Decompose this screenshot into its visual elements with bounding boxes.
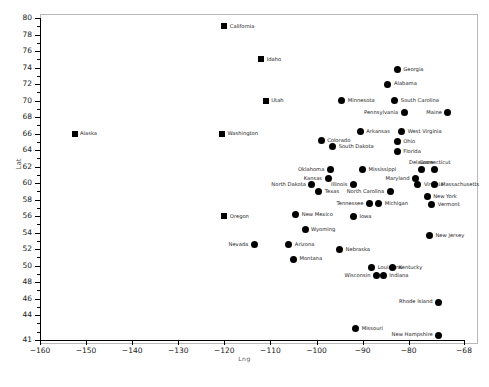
- data-point-label: Maine: [0, 110, 442, 115]
- data-point[interactable]: [435, 332, 442, 339]
- data-point[interactable]: [219, 131, 225, 137]
- data-point[interactable]: [387, 188, 394, 195]
- data-point[interactable]: [251, 241, 258, 248]
- y-tick-label: 56: [10, 212, 32, 220]
- y-tick-label: 72: [10, 80, 32, 88]
- y-tick-minor: [37, 307, 40, 308]
- y-tick-minor: [37, 43, 40, 44]
- data-point-label: Minnesota: [348, 98, 375, 103]
- data-point[interactable]: [221, 213, 227, 219]
- data-point-label: Oregon: [230, 214, 249, 219]
- data-point[interactable]: [398, 128, 405, 135]
- x-tick-label: −100: [297, 347, 337, 355]
- scatter-plot-figure: 4144464850525456586062646668707274767880…: [0, 0, 489, 387]
- data-point[interactable]: [394, 66, 401, 73]
- y-tick: [35, 216, 40, 217]
- y-tick-minor: [37, 142, 40, 143]
- y-tick-label: 76: [10, 47, 32, 55]
- data-point-label: Ohio: [403, 139, 415, 144]
- data-point-label: Montana: [299, 256, 322, 261]
- data-point-label: Washington: [228, 131, 258, 136]
- data-point[interactable]: [394, 138, 401, 145]
- data-point-label: Tennessee: [0, 201, 364, 206]
- data-point[interactable]: [72, 131, 78, 137]
- y-tick-minor: [37, 323, 40, 324]
- data-point-label: South Carolina: [401, 98, 439, 103]
- data-point[interactable]: [357, 128, 364, 135]
- data-point[interactable]: [336, 246, 343, 253]
- y-tick-minor: [37, 208, 40, 209]
- y-tick: [35, 233, 40, 234]
- x-tick-label: −160: [20, 347, 60, 355]
- data-point-label: Alabama: [394, 81, 417, 86]
- y-tick-minor: [37, 290, 40, 291]
- data-point-label: New York: [433, 194, 457, 199]
- data-point-label: Michigan: [385, 201, 408, 206]
- x-tick: [363, 340, 364, 345]
- data-point-label: Idaho: [267, 57, 281, 62]
- data-point[interactable]: [394, 148, 401, 155]
- data-point[interactable]: [302, 226, 309, 233]
- data-point-label: Connecticut: [417, 160, 453, 165]
- data-point-label: Missouri: [362, 326, 383, 331]
- data-point[interactable]: [373, 272, 380, 279]
- data-point[interactable]: [221, 23, 227, 29]
- data-point-label: South Dakota: [339, 144, 374, 149]
- data-point[interactable]: [424, 193, 431, 200]
- data-point[interactable]: [290, 256, 297, 263]
- y-tick: [35, 35, 40, 36]
- data-point-label: Nebraska: [346, 247, 370, 252]
- data-point[interactable]: [350, 213, 357, 220]
- y-tick: [35, 101, 40, 102]
- y-tick: [35, 249, 40, 250]
- x-tick: [86, 340, 87, 345]
- data-point[interactable]: [380, 272, 387, 279]
- y-tick-label: 80: [10, 14, 32, 22]
- data-point-label: New Jersey: [435, 233, 464, 238]
- y-tick-minor: [37, 125, 40, 126]
- x-tick-label: −110: [250, 347, 290, 355]
- x-tick: [132, 340, 133, 345]
- y-tick: [35, 315, 40, 316]
- data-point[interactable]: [444, 109, 451, 116]
- x-tick-label: −80: [389, 347, 429, 355]
- data-point-label: Mississippi: [369, 167, 397, 172]
- y-tick: [35, 134, 40, 135]
- data-point-label: Oklahoma: [0, 167, 324, 172]
- y-tick-minor: [37, 257, 40, 258]
- data-point-label: Massachusetts: [441, 182, 479, 187]
- data-point-label: Georgia: [403, 67, 423, 72]
- data-point-label: Arizona: [295, 242, 315, 247]
- y-tick-label: 64: [10, 146, 32, 154]
- data-point-label: Kansas: [0, 176, 322, 181]
- x-tick-label: −90: [343, 347, 383, 355]
- x-tick: [224, 340, 225, 345]
- y-tick-minor: [37, 158, 40, 159]
- x-tick-label: −140: [112, 347, 152, 355]
- y-tick-minor: [37, 92, 40, 93]
- data-point[interactable]: [389, 264, 396, 271]
- y-tick-label: 78: [10, 31, 32, 39]
- data-point-label: Wyoming: [311, 227, 335, 232]
- x-tick: [40, 340, 41, 345]
- data-point[interactable]: [258, 56, 264, 62]
- x-tick-label: −150: [66, 347, 106, 355]
- data-point-label: Florida: [403, 149, 421, 154]
- data-point-label: Vermont: [438, 202, 460, 207]
- y-tick: [35, 51, 40, 52]
- data-point-label: Colorado: [327, 138, 350, 143]
- data-point-label: Iowa: [359, 214, 371, 219]
- y-tick-label: 74: [10, 64, 32, 72]
- x-tick: [178, 340, 179, 345]
- data-point-label: New Hampshire: [0, 332, 433, 337]
- data-point[interactable]: [318, 137, 325, 144]
- x-tick-label: −68: [444, 347, 484, 355]
- y-tick-minor: [37, 59, 40, 60]
- y-tick: [35, 282, 40, 283]
- data-point[interactable]: [263, 98, 269, 104]
- data-point-label: Rhode Island: [0, 299, 433, 304]
- data-point[interactable]: [435, 299, 442, 306]
- y-tick: [35, 68, 40, 69]
- data-point-label: Illinois: [0, 182, 347, 187]
- y-tick: [35, 84, 40, 85]
